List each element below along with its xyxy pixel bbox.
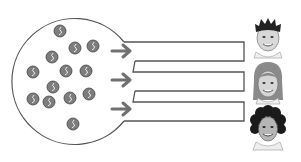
gene-token-icon (83, 88, 95, 100)
gene-token-icon (46, 51, 58, 63)
gene-token-icon (27, 66, 39, 78)
gene-token-icon (54, 25, 66, 37)
person-boy (254, 18, 282, 58)
gene-tokens (27, 25, 99, 130)
gene-token-icon (47, 81, 59, 93)
arrow-right-icon (112, 103, 130, 115)
gene-token-icon (80, 65, 92, 77)
gene-token-icon (64, 92, 76, 104)
gene-token-icon (69, 42, 81, 54)
channel-3 (124, 91, 244, 121)
person-girl (253, 62, 283, 104)
gene-token-icon (60, 65, 72, 77)
gene-token-icon (87, 40, 99, 52)
arrow-right-icon (112, 74, 130, 86)
gene-token-icon (43, 96, 55, 108)
gene-token-icon (67, 118, 79, 130)
gene-token-icon (27, 93, 39, 105)
arrow-right-icon (112, 45, 130, 57)
arrows (112, 45, 130, 115)
person-girl-curly (250, 105, 286, 150)
gene-pool-diagram (0, 0, 301, 162)
channels (124, 42, 244, 121)
channel-1 (124, 42, 244, 61)
channel-2 (133, 61, 244, 91)
